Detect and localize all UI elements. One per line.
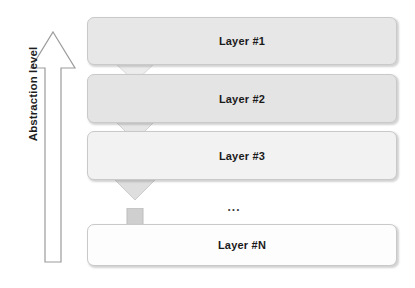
layer-box[interactable]: Layer #2 [87, 74, 397, 123]
layer-box[interactable]: Layer #1 [87, 17, 397, 65]
continuation-ellipsis: ... [222, 200, 246, 214]
layer-label: Layer #3 [219, 150, 265, 162]
layer-label: Layer #2 [219, 93, 265, 105]
abstraction-level-label: Abstraction level [27, 14, 39, 174]
layered-architecture-diagram: Abstraction level Layer #1 Layer #2 Laye… [0, 0, 415, 288]
layer-box[interactable]: Layer #3 [87, 131, 397, 180]
layer-label: Layer #1 [219, 35, 265, 47]
layer-box[interactable]: Layer #N [87, 224, 397, 266]
layer-label: Layer #N [218, 239, 266, 251]
